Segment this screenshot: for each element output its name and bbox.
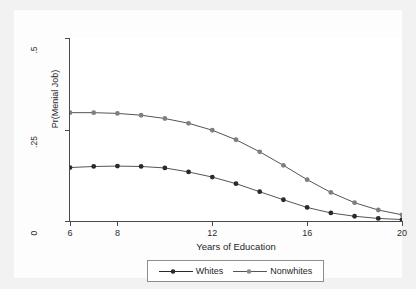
plot-area — [70, 38, 402, 221]
data-point — [234, 137, 239, 142]
data-point — [210, 128, 215, 133]
series-nonwhites — [70, 110, 402, 217]
legend-key-whites — [159, 267, 193, 276]
data-point — [210, 175, 215, 180]
data-point — [139, 113, 144, 118]
data-point — [305, 177, 310, 182]
y-tick — [65, 130, 69, 131]
x-tick-label: 6 — [55, 228, 85, 238]
x-tick — [117, 222, 118, 226]
y-axis-title: Pr(Menial Job) — [50, 44, 60, 154]
x-axis-title: Years of Education — [70, 241, 402, 252]
data-point — [91, 110, 96, 115]
data-point — [257, 149, 262, 154]
y-axis-line — [69, 38, 70, 222]
data-point — [115, 111, 120, 116]
data-point — [281, 163, 286, 168]
series-line — [70, 113, 402, 215]
x-tick-label: 8 — [102, 228, 132, 238]
x-axis-line — [69, 221, 403, 222]
data-point — [257, 189, 262, 194]
data-point — [328, 190, 333, 195]
x-tick — [212, 222, 213, 226]
y-tick-label: .5 — [29, 37, 39, 63]
legend-entry-whites[interactable]: Whites — [159, 266, 224, 276]
data-point — [400, 212, 402, 217]
data-point — [352, 200, 357, 205]
y-tick-label: .25 — [29, 129, 39, 155]
y-tick — [65, 38, 69, 39]
chart-canvas: 0.25.5 68121620 Pr(Menial Job) Years of … — [14, 10, 402, 278]
data-point — [139, 164, 144, 169]
data-point — [281, 197, 286, 202]
series-line — [70, 166, 402, 219]
chart-legend: Whites Nonwhites — [147, 260, 324, 282]
x-tick-label: 20 — [387, 228, 416, 238]
legend-entry-nonwhites[interactable]: Nonwhites — [233, 266, 312, 276]
series-svg — [70, 38, 402, 221]
x-tick — [70, 222, 71, 226]
data-point — [186, 170, 191, 175]
data-point — [376, 208, 381, 213]
data-point — [162, 166, 167, 171]
y-tick — [65, 221, 69, 222]
data-point — [70, 110, 72, 115]
data-point — [352, 214, 357, 219]
data-point — [115, 164, 120, 169]
y-tick-label: 0 — [29, 220, 39, 246]
data-point — [91, 164, 96, 169]
data-point — [305, 205, 310, 210]
data-point — [234, 181, 239, 186]
data-point — [186, 121, 191, 126]
data-point — [328, 211, 333, 216]
data-point — [70, 165, 72, 170]
legend-label-whites: Whites — [196, 266, 224, 276]
x-tick — [307, 222, 308, 226]
legend-label-nonwhites: Nonwhites — [270, 266, 312, 276]
legend-key-nonwhites — [233, 267, 267, 276]
x-tick — [402, 222, 403, 226]
x-tick-label: 12 — [197, 228, 227, 238]
data-point — [162, 116, 167, 121]
series-whites — [70, 164, 402, 221]
chart-figure: 0.25.5 68121620 Pr(Menial Job) Years of … — [0, 0, 416, 289]
x-tick-label: 16 — [292, 228, 322, 238]
